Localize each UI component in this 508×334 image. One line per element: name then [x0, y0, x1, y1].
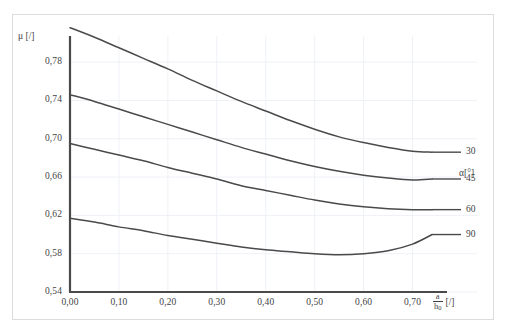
x-tick-label-3: 0,30 — [202, 297, 232, 307]
curve-alpha-30 — [70, 28, 432, 152]
y-tick-label-0: 0,54 — [20, 286, 62, 296]
gridlines — [70, 36, 477, 292]
x-tick-label-0: 0,00 — [55, 297, 85, 307]
plot-area — [0, 0, 508, 334]
x-tick-label-5: 0,50 — [300, 297, 330, 307]
x-axis-unit: [/] — [446, 297, 455, 307]
legend-entry-60: 60 — [466, 204, 476, 214]
y-tick-label-4: 0,70 — [20, 133, 62, 143]
x-axis-numerator: a — [435, 292, 441, 301]
legend-entry-45: 45 — [466, 173, 476, 183]
x-tick-label-6: 0,60 — [349, 297, 379, 307]
legend-leader-lines — [432, 152, 461, 234]
y-axis-title: μ [/] — [18, 31, 34, 41]
curve-alpha-45 — [70, 95, 432, 180]
x-tick-label-1: 0,10 — [104, 297, 134, 307]
y-tick-label-2: 0,62 — [20, 209, 62, 219]
y-tick-label-6: 0,78 — [20, 56, 62, 66]
y-tick-label-1: 0,58 — [20, 248, 62, 258]
x-tick-label-2: 0,20 — [153, 297, 183, 307]
x-axis-denominator: h0 — [433, 301, 443, 312]
legend-entry-30: 30 — [466, 146, 476, 156]
curve-alpha-90 — [70, 218, 432, 254]
y-tick-label-3: 0,66 — [20, 171, 62, 181]
x-axis-title: a h0 [/] — [433, 292, 454, 312]
x-axis-fraction: a h0 — [433, 292, 443, 312]
chart-figure: μ [/] a h0 [/] α[°] 0,540,580,620,660,70… — [0, 0, 508, 334]
x-tick-label-7: 0,70 — [398, 297, 428, 307]
x-axis-denominator-subscript: 0 — [438, 304, 441, 311]
x-tick-label-4: 0,40 — [251, 297, 281, 307]
legend-entry-90: 90 — [466, 229, 476, 239]
y-tick-label-5: 0,74 — [20, 94, 62, 104]
